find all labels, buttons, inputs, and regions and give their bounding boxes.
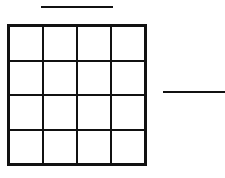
grid-cell bbox=[9, 95, 43, 130]
grid-cell bbox=[43, 130, 77, 165]
right-answer-blank bbox=[163, 91, 225, 93]
grid-cell bbox=[43, 95, 77, 130]
grid-cell bbox=[43, 26, 77, 61]
grid-cell bbox=[43, 61, 77, 96]
grid-cell bbox=[111, 26, 145, 61]
grid-4x4 bbox=[7, 24, 147, 166]
grid-cell bbox=[77, 95, 111, 130]
grid-cell bbox=[9, 26, 43, 61]
grid-cell bbox=[77, 61, 111, 96]
grid-cell bbox=[111, 130, 145, 165]
grid-cell bbox=[9, 61, 43, 96]
grid-cell bbox=[111, 61, 145, 96]
grid-cell bbox=[77, 26, 111, 61]
grid-cell bbox=[77, 130, 111, 165]
grid-cell bbox=[111, 95, 145, 130]
top-answer-blank bbox=[41, 6, 113, 8]
grid-cell bbox=[9, 130, 43, 165]
